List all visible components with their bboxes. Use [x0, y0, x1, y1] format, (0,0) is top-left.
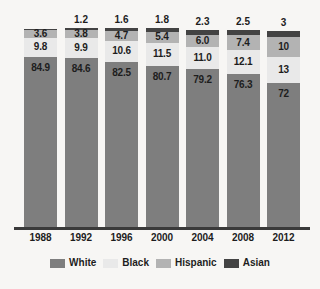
bar-group[interactable]: 1.64.710.682.5 — [105, 0, 138, 227]
bar-stack: 3.69.884.9 — [24, 29, 57, 227]
segment-value-label: 11.0 — [193, 53, 211, 63]
bar-segment-black[interactable]: 12.1 — [227, 50, 260, 74]
bar-top-value-label: 1.2 — [65, 15, 98, 25]
legend-label: White — [69, 258, 96, 268]
segment-value-label: 80.7 — [153, 72, 172, 82]
bar-top-value-label: 3 — [267, 18, 300, 28]
bar-segment-white[interactable]: 76.3 — [227, 74, 260, 227]
segment-value-label: 4.7 — [115, 31, 128, 41]
legend-label: Black — [122, 258, 149, 268]
segment-value-label: 76.3 — [234, 80, 253, 90]
bar-stack: 5.411.580.7 — [146, 28, 179, 227]
bar-group[interactable]: 2.57.412.176.3 — [227, 0, 260, 227]
x-axis-tick-label: 2008 — [227, 232, 260, 243]
bar-top-value-label: 1.8 — [146, 15, 179, 25]
legend-item-asian[interactable]: Asian — [224, 258, 270, 268]
segment-value-label: 9.8 — [34, 42, 47, 52]
segment-value-label: 11.5 — [153, 49, 171, 59]
bar-segment-hispanic[interactable]: 10 — [267, 37, 300, 57]
bar-segment-hispanic[interactable]: 7.4 — [227, 35, 260, 50]
segment-value-label: 82.5 — [112, 68, 131, 78]
chart-legend: WhiteBlackHispanicAsian — [0, 258, 320, 268]
bar-segment-black[interactable]: 9.9 — [65, 38, 98, 58]
bar-segment-hispanic[interactable]: 5.4 — [146, 32, 179, 43]
bar-group[interactable]: 1.85.411.580.7 — [146, 0, 179, 227]
legend-item-hispanic[interactable]: Hispanic — [156, 258, 217, 268]
legend-swatch-icon — [156, 259, 171, 268]
segment-value-label: 79.2 — [193, 75, 212, 85]
segment-value-label: 10 — [278, 42, 289, 52]
bar-segment-white[interactable]: 84.6 — [65, 58, 98, 227]
bar-segment-black[interactable]: 11.0 — [186, 47, 219, 69]
bar-group[interactable]: 1.23.89.984.6 — [65, 0, 98, 227]
bar-top-value-label: 2.5 — [227, 17, 260, 27]
segment-value-label: 7.4 — [236, 38, 249, 48]
x-axis-tick-labels: 1988199219962000200420082012 — [24, 232, 300, 243]
bar-segment-black[interactable]: 11.5 — [146, 43, 179, 66]
bar-segment-black[interactable]: 13 — [267, 57, 300, 83]
bar-group[interactable]: 2.36.011.079.2 — [186, 0, 219, 227]
bar-stack: 3.89.984.6 — [65, 28, 98, 227]
x-axis-tick-label: 2000 — [146, 232, 179, 243]
bar-segment-white[interactable]: 72 — [267, 83, 300, 227]
x-axis-tick-label: 2012 — [267, 232, 300, 243]
segment-value-label: 72 — [278, 89, 289, 99]
segment-value-label: 5.4 — [155, 32, 168, 42]
bar-segment-white[interactable]: 82.5 — [105, 62, 138, 227]
legend-label: Asian — [243, 258, 270, 268]
bar-segment-hispanic[interactable]: 3.6 — [24, 30, 57, 37]
bar-stack: 7.412.176.3 — [227, 30, 260, 227]
legend-swatch-icon — [103, 259, 118, 268]
bar-segment-white[interactable]: 80.7 — [146, 66, 179, 227]
bar-series-container: 3.69.884.91.23.89.984.61.64.710.682.51.8… — [24, 0, 300, 227]
bar-top-value-label: 2.3 — [186, 17, 219, 27]
segment-value-label: 84.9 — [31, 63, 50, 73]
segment-value-label: 10.6 — [112, 46, 131, 56]
bar-segment-white[interactable]: 79.2 — [186, 69, 219, 227]
bar-segment-hispanic[interactable]: 6.0 — [186, 35, 219, 47]
x-axis-line — [14, 227, 310, 230]
legend-item-black[interactable]: Black — [103, 258, 149, 268]
legend-item-white[interactable]: White — [50, 258, 96, 268]
legend-swatch-icon — [50, 259, 65, 268]
segment-value-label: 13 — [278, 65, 289, 75]
legend-label: Hispanic — [175, 258, 217, 268]
segment-value-label: 84.6 — [72, 64, 91, 74]
x-axis-tick-label: 1988 — [24, 232, 57, 243]
bar-segment-white[interactable]: 84.9 — [24, 57, 57, 227]
x-axis-tick-label: 1996 — [105, 232, 138, 243]
bar-segment-black[interactable]: 9.8 — [24, 38, 57, 58]
segment-value-label: 6.0 — [196, 36, 209, 46]
legend-swatch-icon — [224, 259, 239, 268]
bar-stack: 101372 — [267, 31, 300, 227]
bar-top-value-label: 1.6 — [105, 15, 138, 25]
x-axis-tick-label: 2004 — [186, 232, 219, 243]
stacked-bar-chart: 3.69.884.91.23.89.984.61.64.710.682.51.8… — [0, 0, 320, 289]
bar-segment-hispanic[interactable]: 3.8 — [65, 30, 98, 38]
bar-stack: 4.710.682.5 — [105, 28, 138, 227]
bar-segment-hispanic[interactable]: 4.7 — [105, 31, 138, 40]
bar-segment-black[interactable]: 10.6 — [105, 41, 138, 62]
x-axis-tick-label: 1992 — [65, 232, 98, 243]
bar-group[interactable]: 3.69.884.9 — [24, 0, 57, 227]
segment-value-label: 12.1 — [234, 57, 253, 67]
segment-value-label: 9.9 — [74, 43, 87, 53]
bar-group[interactable]: 3101372 — [267, 0, 300, 227]
bar-stack: 6.011.079.2 — [186, 30, 219, 227]
plot-area: 3.69.884.91.23.89.984.61.64.710.682.51.8… — [0, 0, 320, 227]
